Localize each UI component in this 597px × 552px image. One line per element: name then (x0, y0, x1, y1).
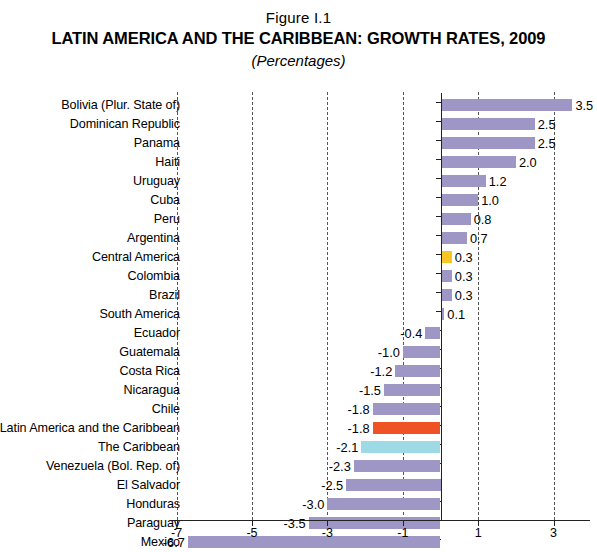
bar-value-label: 0.3 (455, 267, 473, 286)
bar-value-label: 3.5 (575, 96, 593, 115)
bar (441, 289, 452, 301)
bar-value-label: -3.5 (284, 514, 306, 533)
chart-row: Mexico-6.7 (0, 533, 597, 552)
x-axis-tick-label: -5 (246, 526, 257, 540)
figure-number: Figure I.1 (0, 8, 597, 27)
bar-value-label: 0.3 (455, 286, 473, 305)
category-label: Nicaragua (123, 381, 180, 400)
bar-value-label: -2.1 (336, 438, 358, 457)
category-label: Brazil (149, 286, 180, 305)
bar (361, 441, 440, 453)
chart-row: South America0.1 (0, 305, 597, 324)
bar (373, 422, 441, 434)
bar (441, 175, 486, 187)
bar-value-label: 1.0 (481, 191, 499, 210)
chart-row: Panama2.5 (0, 134, 597, 153)
category-label: Uruguay (133, 172, 180, 191)
x-axis-tick-label: -1 (397, 526, 408, 540)
bar (327, 498, 440, 510)
bar (441, 194, 479, 206)
category-label: Guatemala (119, 343, 180, 362)
bar-value-label: -1.8 (348, 419, 370, 438)
chart-row: Argentina0.7 (0, 229, 597, 248)
chart-row: Brazil0.3 (0, 286, 597, 305)
bar-value-label: 2.5 (538, 115, 556, 134)
chart-row: Ecuador-0.4 (0, 324, 597, 343)
bar-value-label: 1.2 (489, 172, 507, 191)
chart-row: Cuba1.0 (0, 191, 597, 210)
bar-value-label: -2.5 (321, 476, 343, 495)
bar (373, 403, 441, 415)
bar-value-label: -1.8 (348, 400, 370, 419)
chart-row: Bolivia (Plur. State of)3.5 (0, 96, 597, 115)
bar-value-label: -1.5 (359, 381, 381, 400)
chart-row: Uruguay1.2 (0, 172, 597, 191)
category-label: The Caribbean (98, 438, 180, 457)
chart-row: Dominican Republic2.5 (0, 115, 597, 134)
category-label: Peru (154, 210, 180, 229)
x-axis-line (170, 520, 590, 521)
chart-row: Nicaragua-1.5 (0, 381, 597, 400)
bar (441, 251, 452, 263)
category-label: Ecuador (134, 324, 180, 343)
category-label: Cuba (150, 191, 180, 210)
x-axis-tick-label: -3 (322, 526, 333, 540)
bar (441, 270, 452, 282)
category-label: South America (99, 305, 180, 324)
bar-value-label: 0.3 (455, 248, 473, 267)
bar-value-label: -3.0 (302, 495, 324, 514)
bar (441, 213, 471, 225)
bar-value-label: -2.3 (329, 457, 351, 476)
bar (395, 365, 440, 377)
bar (425, 327, 440, 339)
category-label: Chile (152, 400, 180, 419)
bar-value-label: -1.2 (370, 362, 392, 381)
x-axis-tick-label: 3 (550, 526, 557, 540)
category-label: Colombia (128, 267, 180, 286)
bar-chart-plot-area: Bolivia (Plur. State of)3.5Dominican Rep… (0, 92, 597, 552)
chart-row: The Caribbean-2.1 (0, 438, 597, 457)
bar-value-label: 0.7 (470, 229, 488, 248)
bar-value-label: 2.5 (538, 134, 556, 153)
bar (441, 118, 535, 130)
bar (441, 232, 467, 244)
chart-row: Peru0.8 (0, 210, 597, 229)
category-label: Dominican Republic (70, 115, 180, 134)
bar-value-label: -0.4 (400, 324, 422, 343)
bar-value-label: 0.1 (447, 305, 465, 324)
category-label: Honduras (126, 495, 180, 514)
category-label: Central America (92, 248, 180, 267)
bar (346, 479, 440, 491)
chart-row: Central America0.3 (0, 248, 597, 267)
chart-row: Latin America and the Caribbean-1.8 (0, 419, 597, 438)
category-label: Haiti (155, 153, 180, 172)
bar (403, 346, 441, 358)
chart-row: Costa Rica-1.2 (0, 362, 597, 381)
category-label: Bolivia (Plur. State of) (61, 96, 180, 115)
bar (354, 460, 441, 472)
category-label: El Salvador (117, 476, 180, 495)
bar-value-label: -1.0 (378, 343, 400, 362)
bar (441, 99, 573, 111)
chart-row: Haiti2.0 (0, 153, 597, 172)
x-axis-tick-label: -7 (171, 526, 182, 540)
category-label: Venezuela (Bol. Rep. of) (46, 457, 180, 476)
chart-row: Guatemala-1.0 (0, 343, 597, 362)
category-label: Costa Rica (119, 362, 180, 381)
figure-title-block: Figure I.1 LATIN AMERICA AND THE CARIBBE… (0, 8, 597, 72)
chart-row: Honduras-3.0 (0, 495, 597, 514)
chart-row: Paraguay-3.5 (0, 514, 597, 533)
category-label: Latin America and the Caribbean (0, 419, 180, 438)
chart-row: Colombia0.3 (0, 267, 597, 286)
bar (441, 137, 535, 149)
category-label: Argentina (127, 229, 180, 248)
bar-value-label: 2.0 (519, 153, 537, 172)
chart-row: El Salvador-2.5 (0, 476, 597, 495)
bar (384, 384, 441, 396)
figure-subtitle: (Percentages) (0, 50, 597, 72)
bar-value-label: 0.8 (474, 210, 492, 229)
category-label: Panama (134, 134, 180, 153)
figure-main-title: LATIN AMERICA AND THE CARIBBEAN: GROWTH … (0, 27, 597, 49)
bar (441, 156, 516, 168)
zero-axis-line (441, 93, 442, 520)
